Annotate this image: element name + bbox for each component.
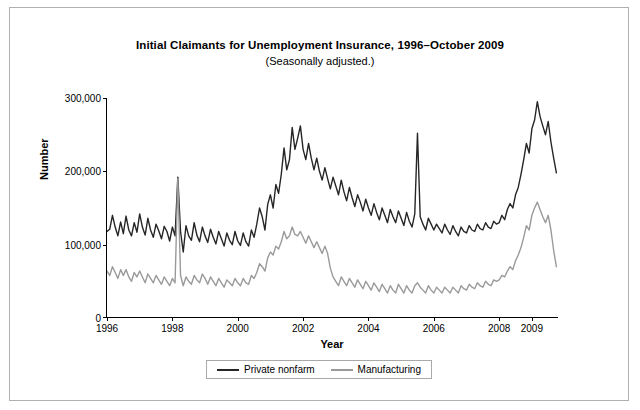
x-tick-label: 2000 xyxy=(227,323,249,334)
y-tick-mark xyxy=(103,245,107,246)
series-layer xyxy=(107,98,559,318)
x-axis-title: Year xyxy=(106,338,558,350)
x-tick-mark xyxy=(172,317,173,321)
x-tick-mark xyxy=(368,317,369,321)
x-tick-mark xyxy=(499,317,500,321)
legend-swatch-manufacturing xyxy=(331,369,353,371)
x-tick-label: 2008 xyxy=(488,323,510,334)
title-block: Initial Claimants for Unemployment Insur… xyxy=(10,38,630,69)
x-tick-mark xyxy=(303,317,304,321)
legend-label-private-nonfarm: Private nonfarm xyxy=(244,364,315,375)
x-tick-label: 1996 xyxy=(96,323,118,334)
x-tick-mark xyxy=(107,317,108,321)
series-line xyxy=(107,102,556,252)
x-tick-mark xyxy=(434,317,435,321)
plot-wrap: 0100,000200,000300,000199619982000200220… xyxy=(106,98,558,318)
y-tick-label: 100,000 xyxy=(65,239,101,250)
x-tick-label: 2006 xyxy=(423,323,445,334)
x-tick-label: 1998 xyxy=(161,323,183,334)
x-tick-mark xyxy=(238,317,239,321)
chart-subtitle: (Seasonally adjusted.) xyxy=(10,53,630,69)
legend-swatch-private-nonfarm xyxy=(217,369,239,371)
y-tick-label: 0 xyxy=(95,313,101,324)
legend-item-private-nonfarm: Private nonfarm xyxy=(217,364,315,375)
x-tick-label: 2009 xyxy=(521,323,543,334)
chart-title: Initial Claimants for Unemployment Insur… xyxy=(10,38,630,53)
chart-frame: Initial Claimants for Unemployment Insur… xyxy=(9,7,629,401)
plot-area: 0100,000200,000300,000199619982000200220… xyxy=(106,98,558,318)
y-tick-mark xyxy=(103,171,107,172)
y-tick-mark xyxy=(103,98,107,99)
legend-item-manufacturing: Manufacturing xyxy=(331,364,421,375)
x-tick-label: 2004 xyxy=(357,323,379,334)
y-axis-title: Number xyxy=(38,138,50,180)
y-tick-label: 200,000 xyxy=(65,166,101,177)
y-tick-label: 300,000 xyxy=(65,93,101,104)
chart-legend: Private nonfarm Manufacturing xyxy=(206,360,432,379)
legend-label-manufacturing: Manufacturing xyxy=(358,364,421,375)
x-tick-mark xyxy=(532,317,533,321)
x-tick-label: 2002 xyxy=(292,323,314,334)
